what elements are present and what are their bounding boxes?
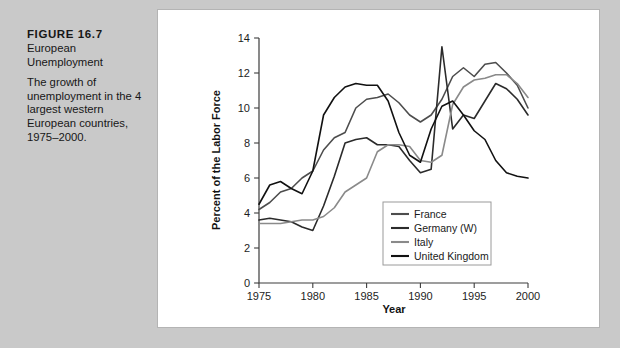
y-tick-label: 12 <box>238 67 250 79</box>
chart-svg: 02468101214 197519801985199019952000 Per… <box>158 10 601 329</box>
legend-label-3: United Kingdom <box>414 250 489 262</box>
y-tick-label: 14 <box>238 32 250 44</box>
x-tick-label: 2000 <box>516 290 540 302</box>
legend-label-2: Italy <box>414 236 434 248</box>
figure-title-line-2: Unemployment <box>27 56 147 70</box>
line-chart: 02468101214 197519801985199019952000 Per… <box>158 10 601 329</box>
x-tick-label: 1985 <box>354 290 378 302</box>
figure-title-line-1: European <box>27 42 147 56</box>
y-axis-ticks: 02468101214 <box>238 32 259 289</box>
x-axis-title: Year <box>382 303 406 315</box>
x-tick-label: 1975 <box>247 290 271 302</box>
chart-panel: 02468101214 197519801985199019952000 Per… <box>157 9 600 328</box>
figure-page: FIGURE 16.7 European Unemployment The gr… <box>0 0 620 348</box>
figure-description: The growth of unemployment in the 4 larg… <box>27 76 147 144</box>
x-axis-ticks: 197519801985199019952000 <box>247 283 540 302</box>
figure-number: FIGURE 16.7 <box>27 27 147 41</box>
series-line-united-kingdom <box>259 84 528 205</box>
y-axis-title: Percent of the Labor Force <box>210 90 222 230</box>
y-tick-label: 6 <box>244 172 250 184</box>
legend-label-1: Germany (W) <box>414 222 477 234</box>
y-tick-label: 10 <box>238 102 250 114</box>
y-tick-label: 2 <box>244 242 250 254</box>
x-tick-label: 1980 <box>301 290 325 302</box>
y-tick-label: 0 <box>244 277 250 289</box>
x-tick-label: 1995 <box>462 290 486 302</box>
chart-legend: FranceGermany (W)ItalyUnited Kingdom <box>383 202 491 265</box>
figure-title: European Unemployment <box>27 42 147 69</box>
x-tick-label: 1990 <box>408 290 432 302</box>
series-line-france <box>259 63 528 210</box>
y-tick-label: 4 <box>244 207 250 219</box>
figure-caption: FIGURE 16.7 European Unemployment The gr… <box>27 27 147 144</box>
legend-label-0: France <box>414 208 447 220</box>
y-tick-label: 8 <box>244 137 250 149</box>
